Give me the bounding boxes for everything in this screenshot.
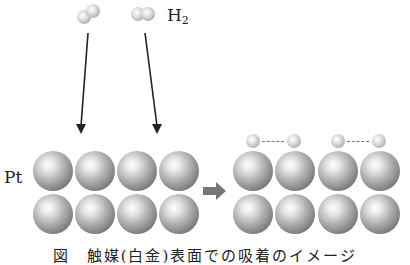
adsorbed-h-atom	[331, 134, 345, 148]
pt-atom	[318, 151, 358, 191]
adsorbed-h-atom	[246, 134, 260, 148]
down-arrow-left	[81, 33, 88, 126]
process-arrow-icon	[216, 182, 226, 200]
figure-caption: 図 触媒(白金)表面での吸着のイメージ	[0, 244, 410, 265]
pt-atom	[233, 194, 273, 234]
adsorbed-h-atom	[372, 134, 386, 148]
pt-atom	[360, 151, 400, 191]
pt-atom	[117, 194, 157, 234]
pt-atom	[75, 194, 115, 234]
pt-atom	[275, 151, 315, 191]
process-arrow-shaft	[203, 187, 217, 195]
pt-atom	[233, 151, 273, 191]
pt-atom	[159, 194, 199, 234]
down-arrow-right	[145, 33, 157, 126]
pt-label: Pt	[4, 167, 22, 187]
pt-atom	[75, 151, 115, 191]
pt-atom	[117, 151, 157, 191]
arrowhead-right-icon	[152, 124, 162, 134]
adsorbed-h-atom	[287, 134, 301, 148]
pt-atom	[318, 194, 358, 234]
pt-atom	[33, 194, 73, 234]
pt-atom	[360, 194, 400, 234]
pt-atom	[33, 151, 73, 191]
pt-atom	[159, 151, 199, 191]
pt-atom	[275, 194, 315, 234]
weak-bond-line	[262, 141, 284, 142]
weak-bond-line	[347, 141, 369, 142]
arrowhead-left-icon	[76, 124, 86, 134]
